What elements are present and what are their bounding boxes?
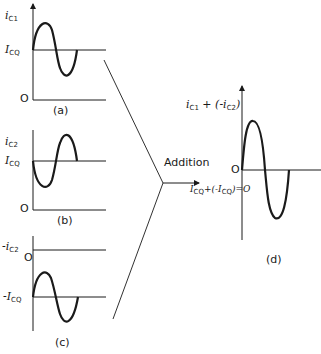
panel-a-baseline-label: ICQ — [5, 44, 20, 57]
panel-c-caption: (c) — [55, 337, 70, 348]
panel-d-baseline-label: ICQ+(-ICQ)=O — [190, 185, 250, 196]
connector-lower-line — [113, 183, 163, 319]
panel-c-origin-label: O — [24, 252, 33, 263]
panel-d-y-label: iC1 + (-iC2) — [186, 99, 240, 112]
connector-upper-line — [104, 60, 163, 183]
panel-d-graph — [242, 86, 321, 240]
panel-b-y-label: iC2 — [5, 136, 18, 149]
diagram-canvas — [0, 0, 321, 354]
panel-b-graph — [33, 130, 106, 210]
panel-a-sine-wave — [33, 23, 77, 75]
panel-d-origin-label: O — [231, 164, 240, 175]
panel-a-origin-label: O — [20, 93, 29, 104]
panel-a-y-label: iC1 — [5, 10, 18, 23]
panel-c-baseline-label: -ICQ — [3, 291, 21, 304]
panel-b-origin-label: O — [20, 203, 29, 214]
panel-a-caption: (a) — [53, 105, 68, 116]
panel-b-baseline-label: ICQ — [5, 155, 20, 168]
panel-d-caption: (d) — [266, 254, 282, 265]
addition-label: Addition — [164, 157, 209, 168]
addition-connector — [104, 60, 199, 319]
panel-a-graph — [33, 4, 106, 100]
panel-c-y-label: -iC2 — [2, 241, 19, 254]
panel-b-caption: (b) — [57, 215, 73, 226]
panel-c-graph — [33, 236, 106, 331]
